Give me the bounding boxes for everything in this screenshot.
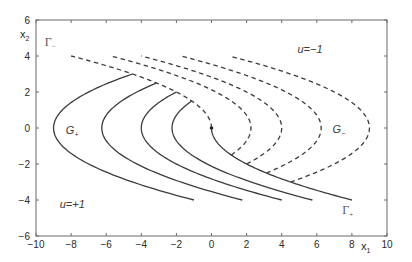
annotation-gamma-minus: Γ− xyxy=(45,35,56,51)
x-tick-label: 6 xyxy=(314,239,320,250)
y-tick-label: 6 xyxy=(24,15,30,26)
dashed-curve-7 xyxy=(141,56,281,164)
annotation-gamma-plus: Γ+ xyxy=(342,203,353,219)
dashed-curve-9 xyxy=(71,56,211,128)
annotation-u-plus-one: u=+1 xyxy=(60,198,85,210)
dashed-curve-5 xyxy=(229,56,369,182)
x-tick-label: 4 xyxy=(279,239,285,250)
annotation-u-minus-one: u=−1 xyxy=(297,43,322,55)
solid-curve-2 xyxy=(141,92,281,200)
y-tick-label: 4 xyxy=(24,51,30,62)
y-axis-label: x2 xyxy=(20,28,30,42)
x-tick-label: −2 xyxy=(171,239,183,250)
x-tick-label: 10 xyxy=(381,239,393,250)
x-tick-label: −6 xyxy=(100,239,112,250)
markers xyxy=(210,126,214,130)
x-tick-label: 0 xyxy=(209,239,215,250)
y-tick-label: 0 xyxy=(24,123,30,134)
x-tick-label: 2 xyxy=(244,239,250,250)
x-tick-label: −4 xyxy=(136,239,148,250)
x-axis-label: x1 xyxy=(361,240,371,254)
x-tick-label: −8 xyxy=(65,239,77,250)
y-tick-label: −6 xyxy=(19,231,31,242)
chart-canvas: −10−8−6−4−20246810−6−4−20246 Γ−u=−1G+G−u… xyxy=(0,0,412,262)
y-tick-label: 2 xyxy=(24,87,30,98)
annotation-g-minus: G− xyxy=(333,123,346,137)
x-tick-label: −10 xyxy=(28,239,45,250)
origin-marker xyxy=(210,126,214,130)
x-tick-label: 8 xyxy=(349,239,355,250)
y-tick-label: −4 xyxy=(19,195,31,206)
annotations: Γ−u=−1G+G−u=+1Γ+ xyxy=(45,35,353,218)
phase-plane-chart: −10−8−6−4−20246810−6−4−20246 Γ−u=−1G+G−u… xyxy=(0,0,412,262)
annotation-g-plus: G+ xyxy=(66,124,79,138)
dashed-curve-8 xyxy=(111,56,251,155)
solid-curve-4 xyxy=(212,128,352,200)
solid-curve-3 xyxy=(172,101,312,200)
y-tick-label: −2 xyxy=(19,159,31,170)
